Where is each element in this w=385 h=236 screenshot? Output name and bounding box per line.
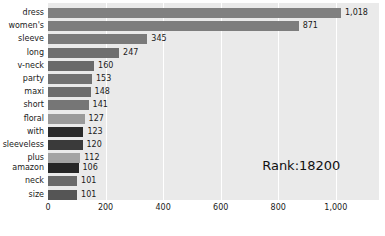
bar-value-label: 871 <box>303 22 318 30</box>
bar-value-label: 120 <box>87 141 102 149</box>
x-tick-label: 1,000 <box>324 204 347 212</box>
bar-value-label: 160 <box>98 62 113 70</box>
x-tick-label: 400 <box>155 204 170 212</box>
bar-row: 141 <box>48 100 379 110</box>
bar-row: 153 <box>48 74 379 84</box>
category-label: sleeveless <box>0 141 44 149</box>
bar-value-label: 123 <box>87 128 102 136</box>
bar-value-label: 247 <box>123 49 138 57</box>
bar-row: 127 <box>48 114 379 124</box>
category-label: neck <box>0 177 44 185</box>
bar-value-label: 127 <box>89 115 104 123</box>
bar-chart: dresswomen'ssleevelongv-neckpartymaxisho… <box>0 0 385 236</box>
category-label: sleeve <box>0 35 44 43</box>
bar-row: 101 <box>48 176 379 186</box>
bar-row: 160 <box>48 61 379 71</box>
bar-row: 1,018 <box>48 8 379 18</box>
bar <box>48 140 83 150</box>
category-label: amazon <box>0 164 44 172</box>
bar <box>48 34 147 44</box>
bar <box>48 153 80 163</box>
category-label: with <box>0 128 44 136</box>
category-label: plus <box>0 154 44 162</box>
category-label: party <box>0 75 44 83</box>
bar <box>48 48 119 58</box>
bar <box>48 190 77 200</box>
bar-value-label: 141 <box>93 101 108 109</box>
bar-row: 120 <box>48 140 379 150</box>
bar-value-label: 101 <box>81 177 96 185</box>
bar-row: 101 <box>48 190 379 200</box>
bar-value-label: 106 <box>83 164 98 172</box>
category-label: women's <box>0 22 44 30</box>
category-label: v-neck <box>0 62 44 70</box>
x-tick-label: 0 <box>45 204 50 212</box>
x-tick-label: 800 <box>271 204 286 212</box>
category-label: long <box>0 49 44 57</box>
bar-value-label: 345 <box>151 35 166 43</box>
bar <box>48 176 77 186</box>
bar <box>48 61 94 71</box>
bar-row: 871 <box>48 21 379 31</box>
x-axis: 02004006008001,000 <box>48 200 379 220</box>
bar-row: 345 <box>48 34 379 44</box>
bar-row: 123 <box>48 127 379 137</box>
category-label: size <box>0 191 44 199</box>
bar-value-label: 148 <box>95 88 110 96</box>
bar-row: 247 <box>48 48 379 58</box>
bar <box>48 163 79 173</box>
bar <box>48 8 341 18</box>
category-label: maxi <box>0 88 44 96</box>
bar <box>48 100 89 110</box>
bar-value-label: 112 <box>84 154 99 162</box>
bar-value-label: 101 <box>81 191 96 199</box>
category-label: dress <box>0 9 44 17</box>
bar <box>48 114 85 124</box>
category-label: floral <box>0 115 44 123</box>
bar-value-label: 153 <box>96 75 111 83</box>
bar <box>48 21 299 31</box>
bar-value-label: 1,018 <box>345 9 368 17</box>
x-tick-label: 200 <box>98 204 113 212</box>
bar <box>48 74 92 84</box>
rank-annotation: Rank:18200 <box>262 159 340 172</box>
x-tick-label: 600 <box>213 204 228 212</box>
bar <box>48 87 91 97</box>
bar <box>48 127 83 137</box>
category-axis-labels: dresswomen'ssleevelongv-neckpartymaxisho… <box>0 3 44 200</box>
bar-row: 148 <box>48 87 379 97</box>
category-label: short <box>0 101 44 109</box>
